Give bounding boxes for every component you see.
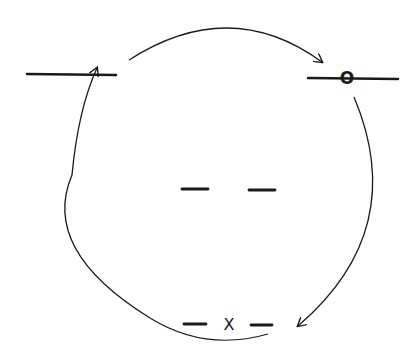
top-left-line — [27, 74, 116, 75]
top-right-marker-o: O — [340, 70, 354, 87]
bottom-arc — [150, 318, 268, 340]
arrow-left-arc — [65, 68, 150, 318]
cycle-diagram — [0, 0, 419, 363]
arrow-top-arc — [129, 28, 322, 62]
arrow-right-arc — [298, 97, 373, 326]
bottom-marker-x: X — [224, 317, 235, 333]
